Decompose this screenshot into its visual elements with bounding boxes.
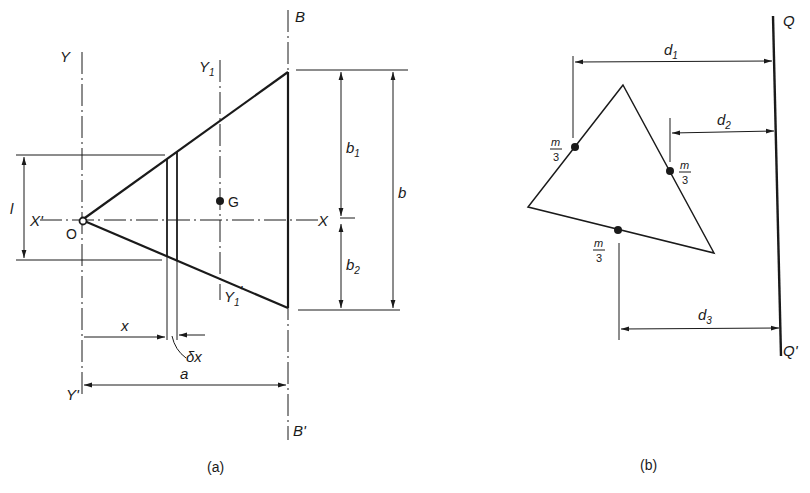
label-b1: b1	[346, 139, 360, 159]
label-d3: d3	[698, 306, 712, 326]
label-d2: d2	[717, 111, 731, 131]
svg-text:3: 3	[682, 174, 688, 186]
label-x: X	[317, 212, 329, 229]
strip-extension-lines	[167, 256, 177, 340]
label-y: Y	[60, 48, 71, 65]
label-b-prime: B'	[293, 422, 307, 439]
label-d1: d1	[664, 41, 678, 61]
mass-label-3: m 3	[593, 237, 605, 264]
dimension-l	[16, 155, 165, 260]
svg-text:m: m	[680, 159, 689, 171]
svg-text:3: 3	[596, 252, 602, 264]
label-a: a	[180, 365, 188, 382]
svg-text:m: m	[594, 237, 603, 249]
reference-line-qq	[773, 16, 781, 356]
figure-b: Q Q' d1 d2 d3 m 3 m 3 m 3 (b)	[528, 12, 799, 473]
svg-text:m: m	[551, 136, 560, 148]
label-b-top: B	[295, 8, 305, 25]
mass-point-3	[614, 226, 622, 234]
label-centroid: G	[228, 194, 239, 210]
triangular-lamina	[82, 72, 288, 308]
label-y1: Y1	[199, 58, 215, 78]
caption-a: (a)	[207, 459, 224, 475]
diagram-canvas: Y Y' Y1 Y1' B B' X X' O G l x δx a b1 b2…	[0, 0, 810, 493]
mass-label-2: m 3	[679, 159, 691, 186]
label-x-prime: X'	[29, 212, 44, 229]
svg-text:3: 3	[553, 151, 559, 163]
distance-dimensions	[573, 56, 779, 340]
label-x-distance: x	[120, 317, 129, 334]
label-q: Q	[783, 12, 795, 29]
origin-point	[80, 218, 87, 225]
label-origin: O	[66, 226, 77, 242]
label-l: l	[10, 200, 14, 217]
label-y-prime: Y'	[66, 386, 80, 403]
label-delta-x: δx	[186, 348, 202, 365]
label-q-prime: Q'	[783, 342, 799, 359]
mass-label-1: m 3	[550, 136, 562, 163]
mass-point-1	[571, 143, 579, 151]
figure-a: Y Y' Y1 Y1' B B' X X' O G l x δx a b1 b2…	[10, 8, 408, 475]
mass-point-2	[666, 167, 674, 175]
label-b: b	[398, 184, 406, 201]
centroid-point	[216, 197, 224, 205]
caption-b: (b)	[640, 457, 657, 473]
label-b2: b2	[346, 256, 360, 276]
elemental-strip	[167, 152, 177, 261]
dimension-b	[296, 70, 408, 310]
